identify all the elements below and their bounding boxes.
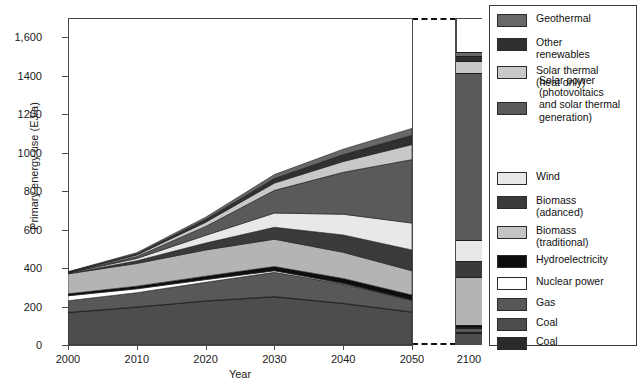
panel-2100-top-rule [456,18,482,19]
legend-label: Coal [536,316,642,328]
x-tick-label: 2010 [115,353,159,365]
panel-2100-layer [456,261,482,277]
panel-2100-layer [456,240,482,261]
y-tick-label: 1200 [18,108,42,120]
x-tick-label: 2030 [252,353,296,365]
panel-2100-layer [456,56,482,61]
legend-label: Wind [536,170,642,182]
y-tick-label: 800 [24,185,42,197]
legend-swatch [497,38,527,51]
panel-2100-layer [456,325,482,327]
legend-swatch [497,172,527,185]
x-axis-title: Year [68,368,412,380]
legend-swatch [497,318,527,331]
x-tick-mark [412,345,413,350]
panel-2100-layer [456,327,482,328]
y-tick-label: 0 [36,339,42,351]
legend-swatch [497,277,527,290]
chart-root: Primary energy use (EJ/a) 02004006008001… [0,0,642,389]
legend-label: Hydroelectricity [536,253,642,265]
stacked-area-series [68,18,412,345]
legend-swatch [497,14,527,27]
panel-2100-layer [456,332,482,334]
legend-label: Gas [536,296,642,308]
legend-label: Solar power (photovoltaics and solar the… [539,74,642,123]
y-tick-label: 1,600 [14,31,42,43]
axis-break-region [412,18,456,345]
legend-swatch [497,196,527,209]
y-tick-label: 1000 [18,147,42,159]
panel-2100-layer [456,52,482,56]
panel-2100-layer [456,328,482,331]
panel-2100-layer [456,61,482,73]
legend-label: Biomass (traditional) [536,224,642,248]
x-tick-label: 2040 [321,353,365,365]
x-axis-line [68,345,412,346]
legend-label: Geothermal [536,12,642,24]
panel-2100-layer [456,333,482,345]
legend-label: Nuclear power [536,275,642,287]
x-tick-label: 2020 [184,353,228,365]
panel-2100-bar [456,18,482,345]
legend-swatch [497,255,527,268]
y-tick-label: 200 [24,301,42,313]
x-tick-label: 2050 [390,353,434,365]
legend-box: GeothermalOther renewablesSolar thermal … [489,5,637,346]
y-axis-ticks: 02004006008001000120014001,600 [0,0,42,389]
panel-2100-layer [456,73,482,240]
legend-label: Biomass (adanced) [536,194,642,218]
x-tick-label-2100: 2100 [447,353,491,365]
legend-items: GeothermalOther renewablesSolar thermal … [490,6,638,347]
axis-break-left-edge [412,18,413,345]
y-tick-label: 400 [24,262,42,274]
legend-label: Coal [536,335,642,347]
legend-swatch [497,337,527,350]
legend-swatch [497,66,527,79]
y-tick-label: 600 [24,224,42,236]
legend-label: Other renewables [536,36,642,60]
panel-2100-layer [456,277,482,325]
legend-swatch [497,298,527,311]
y-tick-label: 1400 [18,70,42,82]
legend-swatch [497,226,527,239]
x-tick-label: 2000 [46,353,90,365]
legend-swatch [497,102,527,115]
